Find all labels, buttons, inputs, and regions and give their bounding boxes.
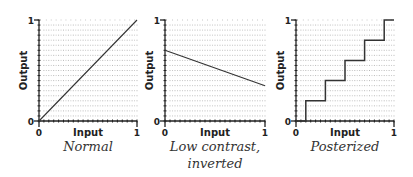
x-tick-min: 0: [293, 128, 299, 138]
y-tick-min: 0: [285, 117, 291, 127]
y-tick-min: 0: [154, 117, 160, 127]
caption-line-1: Low contrast,: [150, 138, 280, 155]
x-axis-label: Input: [200, 127, 230, 138]
x-tick-max: 1: [262, 128, 268, 138]
y-tick-max: 1: [154, 16, 160, 26]
y-axis-label: Output: [275, 51, 286, 91]
x-tick-max: 1: [134, 128, 140, 138]
x-axis-label: Input: [73, 127, 103, 138]
x-tick-min: 0: [162, 128, 168, 138]
grid: [300, 20, 394, 122]
x-tick-min: 0: [36, 128, 42, 138]
x-axis-label: Input: [330, 127, 360, 138]
y-tick-min: 0: [28, 117, 34, 127]
chart-3: 1001InputOutput: [275, 16, 397, 138]
caption-posterized: Posterized: [296, 138, 394, 155]
y-axis-label: Output: [18, 51, 29, 91]
caption-line-2: inverted: [150, 155, 280, 172]
chart-1: 1001InputOutput: [18, 16, 140, 138]
y-tick-max: 1: [28, 16, 34, 26]
caption-low-contrast-inverted: Low contrast, inverted: [150, 138, 280, 172]
grid: [170, 20, 266, 122]
chart-2: 1001InputOutput: [144, 16, 268, 138]
x-tick-max: 1: [391, 128, 397, 138]
y-tick-max: 1: [285, 16, 291, 26]
caption-normal: Normal: [39, 138, 137, 155]
y-axis-label: Output: [144, 51, 155, 91]
